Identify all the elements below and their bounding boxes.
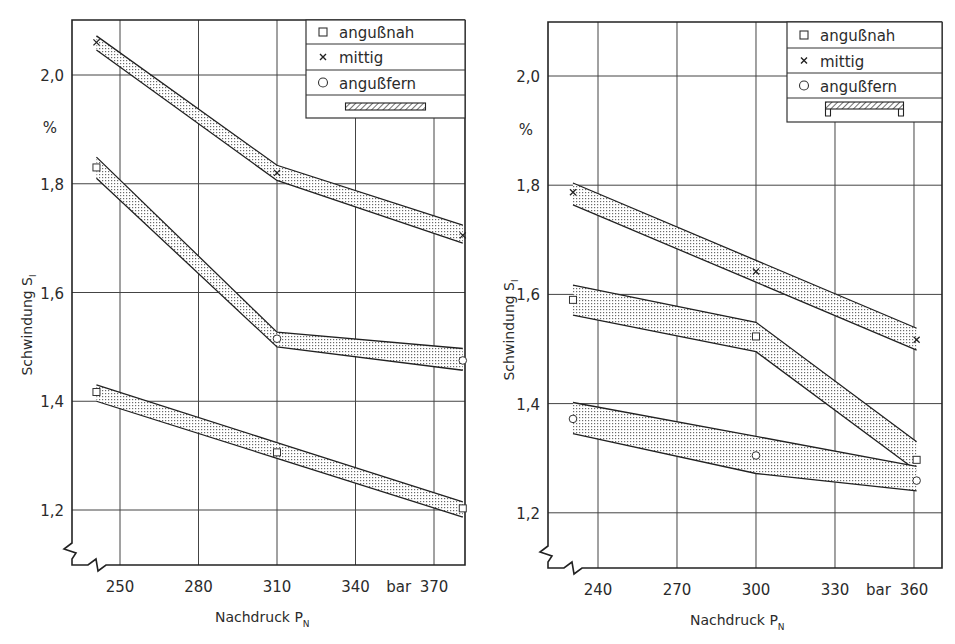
x-tick-label: 370 [420,578,449,596]
y-axis-label-main: Schwindung S [19,277,35,376]
x-tick-label: 360 [900,581,929,599]
legend-label: mittig [339,49,383,67]
y-tick-label: 1,2 [516,505,540,523]
marker-circle-icon [569,415,577,423]
x-axis-label-main: Nachdruck P [690,612,778,628]
legend-label: angußfern [339,75,416,93]
part-u-profile-icon [826,102,904,109]
chart-left: 2502803103403701,21,41,61,82,0bar%angußn… [19,20,467,629]
marker-square-icon [93,389,100,396]
y-axis-label-subscript: l [510,279,520,282]
y-tick-label: 1,2 [40,502,64,520]
marker-square-icon [913,456,920,463]
y-tick-label: 1,6 [516,286,540,304]
x-axis-label-subscript: N [303,619,310,629]
x-unit-label: bar [866,581,892,599]
y-unit-label: % [43,119,57,137]
marker-circle-icon [459,357,467,365]
y-tick-label: 1,8 [40,176,64,194]
y-tick-label: 1,4 [40,393,64,411]
x-tick-label: 240 [584,581,613,599]
chart-right: 2402703003303601,21,41,61,82,0bar%angußn… [501,22,942,632]
x-tick-label: 250 [106,578,135,596]
band-upper-edge [96,157,462,348]
marker-circle-icon [913,477,921,485]
x-tick-label: 270 [663,581,692,599]
chart-canvas: 2502803103403701,21,41,61,82,0bar%angußn… [0,0,955,644]
marker-square-icon [752,333,759,340]
y-tick-label: 1,6 [40,285,64,303]
x-axis-label-main: Nachdruck P [215,609,303,625]
legend-label: angußnah [339,24,414,42]
marker-square-icon [459,505,466,512]
x-axis-label: Nachdruck PN [215,609,310,629]
legend-square-icon [319,28,327,36]
x-tick-label: 310 [263,578,292,596]
legend-label: angußnah [820,27,895,45]
y-axis-label: Schwindung Sl [19,274,38,375]
marker-square-icon [93,164,100,171]
marker-circle-icon [752,452,760,460]
legend-square-icon [800,31,808,39]
x-tick-label: 280 [184,578,213,596]
x-axis-label-subscript: N [778,622,785,632]
legend-label: angußfern [820,78,897,96]
legend-circle-icon [800,81,809,90]
y-axis-label-main: Schwindung S [501,282,517,381]
legend-label: mittig [820,53,864,71]
marker-square-icon [569,296,576,303]
part-flat-bar-icon [346,103,426,110]
band-lower-edge [96,401,462,517]
x-axis-label: Nachdruck PN [690,612,785,632]
legend-circle-icon [319,78,328,87]
y-unit-label: % [519,121,533,139]
y-tick-label: 1,4 [516,396,540,414]
y-tick-label: 1,8 [516,177,540,195]
band-upper-edge [96,385,462,502]
marker-circle-icon [273,335,281,343]
figure: 2502803103403701,21,41,61,82,0bar%angußn… [0,0,955,644]
x-unit-label: bar [386,578,412,596]
y-tick-label: 2,0 [40,67,64,85]
x-tick-label: 330 [821,581,850,599]
y-tick-label: 2,0 [516,68,540,86]
x-tick-label: 340 [341,578,370,596]
x-tick-label: 300 [742,581,771,599]
marker-square-icon [274,449,281,456]
y-axis-label-subscript: l [28,274,38,277]
